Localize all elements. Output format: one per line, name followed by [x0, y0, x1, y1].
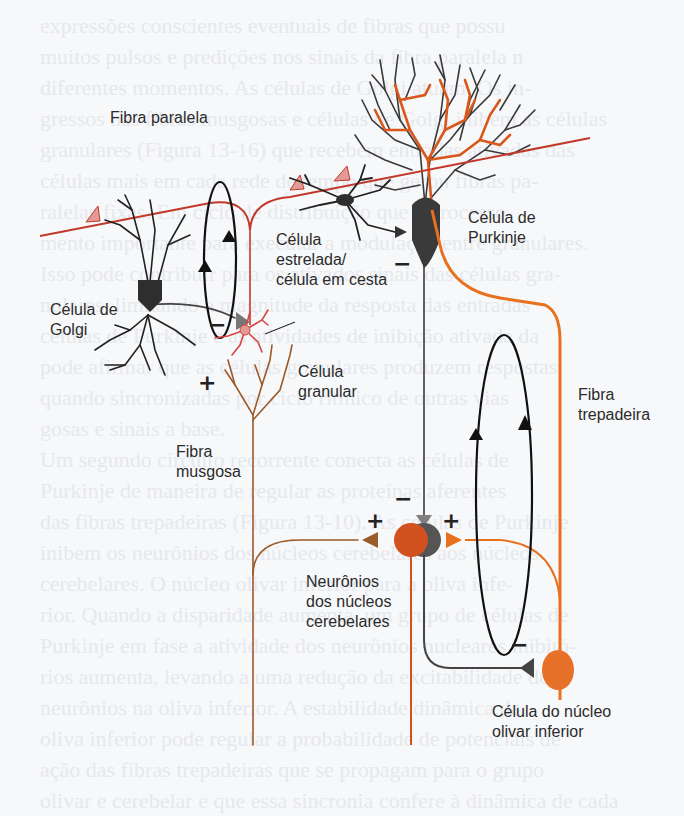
- granule-soma: [240, 325, 250, 335]
- label-granule-2: granular: [298, 382, 357, 402]
- label-purkinje-2: Purkinje: [468, 228, 526, 248]
- sign-purkinje-to-nuclei: −: [394, 488, 412, 510]
- climbing-to-nuclei-synapse: [446, 532, 462, 548]
- inferior-olive-cell: [542, 650, 574, 690]
- label-granule-1: Célula: [298, 362, 343, 382]
- climbing-fiber: [432, 210, 560, 700]
- label-olive-1: Célula do núcleo: [492, 702, 611, 722]
- label-climbing-2: trepadeira: [578, 405, 650, 425]
- sign-golgi-inhibit: −: [208, 314, 226, 336]
- sign-mossy-excite: +: [198, 372, 216, 394]
- label-mossy-1: Fibra: [176, 442, 212, 462]
- stellate-synapse: [395, 226, 407, 238]
- label-olive-2: olivar inferior: [492, 722, 584, 742]
- nuclei-to-olive-synapse: [520, 658, 534, 678]
- label-stellate-2: estrelada/: [276, 250, 346, 270]
- label-nuclei-1: Neurônios: [306, 572, 379, 592]
- label-nuclei-3: cerebelares: [306, 612, 390, 632]
- label-golgi-2: Golgi: [50, 320, 87, 340]
- label-mossy-2: musgosa: [176, 462, 241, 482]
- stellate-soma: [336, 194, 354, 206]
- label-golgi-1: Célula de: [50, 300, 118, 320]
- golgi-soma: [138, 280, 162, 312]
- mossy-fiber: [225, 345, 358, 745]
- label-purkinje-1: Célula de: [468, 208, 536, 228]
- label-nuclei-2: dos núcleos: [306, 592, 391, 612]
- granule-label-leader: [265, 322, 295, 334]
- sign-mossy-to-nuclei: +: [366, 510, 384, 532]
- label-stellate-1: Célula: [276, 230, 321, 250]
- label-climbing-1: Fibra: [578, 385, 614, 405]
- nuclear-neuron-orange: [394, 523, 428, 557]
- sign-stellate-inhibit: −: [393, 253, 411, 275]
- label-stellate-3: célula em cesta: [276, 270, 387, 290]
- label-parallel-fiber: Fibra paralela: [110, 108, 208, 128]
- olive-loop-arrow: [476, 335, 532, 655]
- sign-nuclei-to-olive: −: [510, 634, 528, 656]
- mossy-to-nuclei-synapse: [362, 532, 378, 548]
- sign-climbing-to-nuclei: +: [442, 510, 460, 532]
- nuclear-axon-gray: [424, 555, 522, 668]
